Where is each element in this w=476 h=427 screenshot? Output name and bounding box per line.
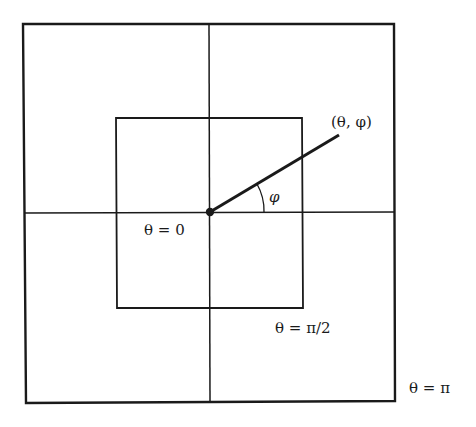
center-dot [206, 208, 214, 216]
center-label: θ = 0 [144, 221, 185, 239]
inner-square-label: θ = π/2 [275, 319, 331, 337]
outer-square-label: θ = π [409, 379, 450, 397]
diagram-canvas: (θ, φ) φ θ = 0 θ = π/2 θ = π [0, 0, 476, 427]
angle-label: φ [269, 188, 280, 206]
point-label: (θ, φ) [331, 113, 372, 131]
angle-arc [257, 184, 264, 212]
